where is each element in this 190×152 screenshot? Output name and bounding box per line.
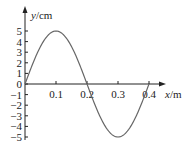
x-axis-label: x/m (164, 88, 182, 100)
x-tick-label: 0.1 (49, 88, 63, 100)
y-tick-label: −5 (10, 131, 22, 143)
chart: 543210−1−2−3−4−5 0.10.20.30.4 y/cm x/m (0, 0, 190, 152)
x-tick-label: 0.3 (111, 88, 125, 100)
y-axis-label: y/cm (30, 9, 53, 21)
x-axis-arrow-icon (159, 82, 166, 87)
y-axis-arrow-icon (23, 6, 28, 13)
